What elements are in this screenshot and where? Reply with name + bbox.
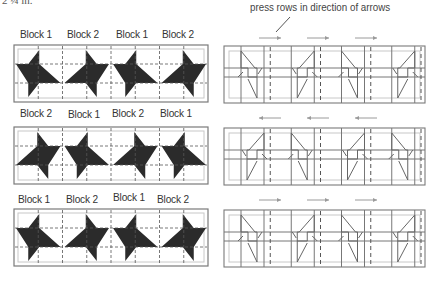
arrow-left-icon bbox=[259, 116, 263, 120]
quilt-diagram bbox=[0, 0, 434, 282]
arrow-right-icon bbox=[373, 198, 377, 202]
arrow-right-icon bbox=[277, 198, 281, 202]
pressing-row-outer-border bbox=[224, 210, 425, 267]
arrow-left-icon bbox=[307, 116, 311, 120]
pressing-row-outer-border bbox=[224, 46, 425, 103]
arrow-right-icon bbox=[373, 36, 377, 40]
caption-pointer-line bbox=[276, 17, 290, 32]
arrow-left-icon bbox=[355, 116, 359, 120]
arrow-right-icon bbox=[325, 198, 329, 202]
arrow-right-icon bbox=[325, 36, 329, 40]
arrow-right-icon bbox=[277, 36, 281, 40]
